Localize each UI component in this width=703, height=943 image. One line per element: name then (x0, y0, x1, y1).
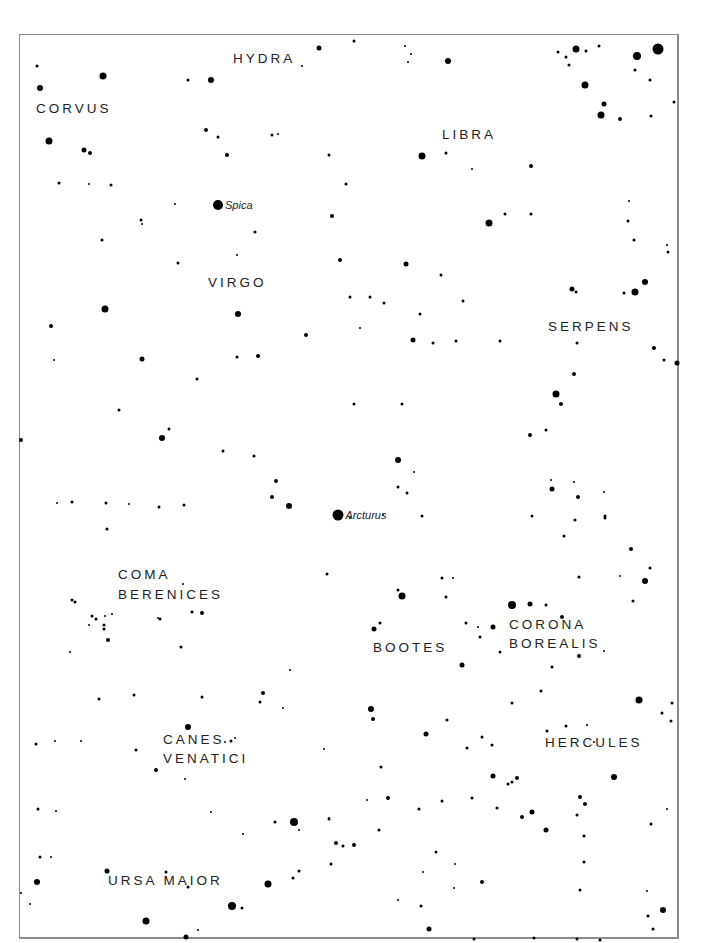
star (460, 663, 465, 668)
star (270, 495, 274, 499)
star (650, 823, 653, 826)
star (58, 182, 61, 185)
star (200, 611, 204, 615)
star (619, 575, 621, 577)
star (74, 601, 77, 604)
star (174, 203, 176, 205)
star (452, 577, 454, 579)
star (330, 863, 333, 866)
star (201, 696, 204, 699)
star (338, 258, 342, 262)
star (435, 851, 438, 854)
star (46, 138, 53, 145)
star (633, 52, 641, 60)
constellation-label-venatici: VENATICI (163, 750, 248, 767)
star (618, 117, 622, 121)
star (234, 737, 236, 739)
star (304, 333, 308, 337)
star (576, 495, 580, 499)
star (345, 183, 348, 186)
star (103, 624, 106, 627)
star (184, 778, 186, 780)
star (349, 296, 352, 299)
star (88, 624, 90, 626)
star (105, 502, 108, 505)
star (598, 112, 605, 119)
star (242, 833, 244, 835)
star (34, 879, 40, 885)
star (154, 768, 158, 772)
star (477, 626, 479, 628)
star (35, 743, 38, 746)
star (177, 262, 180, 265)
star (634, 69, 637, 72)
star (158, 506, 161, 509)
star (143, 918, 150, 925)
star (277, 133, 279, 135)
star (298, 829, 300, 831)
star (568, 64, 571, 67)
star (286, 503, 292, 509)
star (419, 153, 426, 160)
star (632, 600, 635, 603)
star (653, 44, 664, 55)
star (298, 870, 301, 873)
star (328, 154, 331, 157)
star (603, 491, 605, 493)
star (499, 340, 502, 343)
star (529, 164, 533, 168)
star (196, 378, 199, 381)
star (180, 646, 183, 649)
star (183, 504, 186, 507)
star (661, 712, 664, 715)
star (197, 929, 199, 931)
star (50, 856, 52, 858)
star (649, 79, 652, 82)
star (660, 907, 666, 913)
star (585, 50, 588, 53)
star (228, 902, 236, 910)
star (353, 40, 356, 43)
star (553, 391, 560, 398)
star (446, 719, 449, 722)
star (540, 690, 543, 693)
star (481, 736, 484, 739)
star (256, 354, 260, 358)
star (265, 881, 272, 888)
star (111, 613, 113, 615)
star (652, 928, 655, 931)
star (352, 843, 356, 847)
star (441, 800, 444, 803)
star (604, 515, 607, 518)
star (636, 697, 643, 704)
star (432, 342, 435, 345)
named-star-arcturus (333, 510, 344, 521)
star (546, 730, 549, 733)
star (253, 455, 256, 458)
star (55, 810, 57, 812)
star (627, 220, 630, 223)
star (100, 73, 107, 80)
star (533, 937, 536, 940)
star (599, 939, 602, 942)
star (486, 220, 493, 227)
star (98, 698, 101, 701)
star (565, 56, 568, 59)
star (379, 622, 382, 625)
star (611, 774, 617, 780)
star (274, 479, 278, 483)
star (480, 880, 484, 884)
star (191, 611, 194, 614)
star (404, 262, 409, 267)
star (184, 935, 189, 940)
star-label-spica: Spica (225, 199, 253, 211)
star (575, 291, 578, 294)
star (577, 654, 581, 658)
star (236, 254, 238, 256)
star (576, 814, 579, 817)
star (133, 694, 136, 697)
constellation-label-ursa-maior: URSA MAIOR (108, 872, 223, 889)
star (289, 669, 291, 671)
star (419, 313, 422, 316)
star (261, 691, 265, 695)
